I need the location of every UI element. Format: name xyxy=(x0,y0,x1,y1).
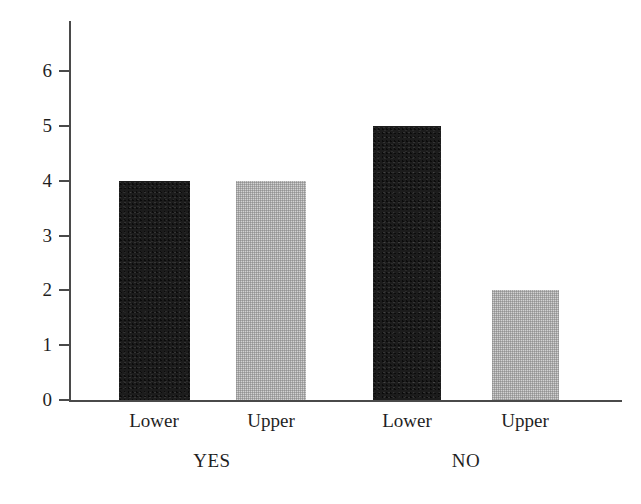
bar-no-upper xyxy=(492,290,559,400)
bar-yes-upper xyxy=(236,181,306,400)
bar-yes-lower xyxy=(119,181,190,400)
category-label-2: Lower xyxy=(347,410,467,432)
category-label-1: Upper xyxy=(211,410,331,432)
x-axis-line xyxy=(69,400,622,402)
bar-no-lower xyxy=(373,126,441,400)
bar-chart-figure: 0123456 LowerUpperLowerUpper YESNO Group… xyxy=(0,0,641,504)
bars-layer xyxy=(0,0,641,400)
category-label-0: Lower xyxy=(94,410,214,432)
group-label-no: NO xyxy=(386,450,546,472)
group-label-yes: YES xyxy=(132,450,292,472)
category-label-3: Upper xyxy=(465,410,585,432)
